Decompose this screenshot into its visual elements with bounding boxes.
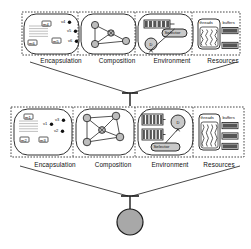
cell-environment-top-queue-slot [145,21,148,27]
cell-encapsulation-top-var-dot [74,30,77,33]
cell-composition-top-node [122,37,129,44]
cell-environment-middle-queue-slot [150,115,152,124]
cell-encapsulation-middle-method-label-m1: m1 [25,115,31,120]
cell-environment-middle-queue-slot [160,130,162,139]
cell-environment-middle-queue-slot [143,115,145,124]
cell-environment-top-queue-slot [149,21,152,27]
cell-environment-top-dispatcher-label: D [150,42,153,47]
cell-environment-middle-queue [142,114,163,125]
cell-encapsulation-top-var-label-v4: v4 [61,19,65,24]
cell-environment-middle-queue-slot [143,130,145,139]
cell-resources-middle-buffer-fill [223,144,237,148]
cell-encapsulation-middle-method-label-m2: m2 [21,138,27,143]
connector-middle-to-instance-left-leg [20,166,128,196]
cell-composition-top-node [91,40,98,47]
cell-environment-middle-queue-slot [146,130,148,139]
cell-label-environment: Environment [152,161,189,168]
cell-encapsulation-middle-var-dot [62,119,65,122]
cell-environment-middle-queue-slot [150,130,152,139]
connector-top-to-middle-left-leg [30,62,128,93]
cell-environment-middle-queue-slot [157,115,159,124]
instance-node [117,209,143,235]
cell-encapsulation-top-var-label-v6: v6 [68,38,72,43]
cell-environment-top-queue [144,20,170,28]
connector-middle-to-instance-right-leg [132,166,240,196]
cell-environment-top-queue-slot [153,21,156,27]
diagram-canvas: m4m5m6v4v5v6EncapsulationCompositionDSel… [0,0,251,249]
cell-label-resources: Resources [203,161,234,168]
cell-environment-middle-queue-slot [146,115,148,124]
cell-environment-top-selector-label: Selector [164,30,180,35]
cell-environment-top-queue-slot [162,21,165,27]
cell-resources-top-threads-label: threads [200,20,213,25]
cell-label-encapsulation: Encapsulation [34,161,75,168]
cell-label-environment: Environment [154,57,191,64]
cell-resources-top-buffers-label: buffers [223,20,235,25]
cell-label-composition: Composition [95,161,132,168]
cell-environment-top-queue-slot [166,21,169,27]
cell-composition-middle-node [112,112,120,120]
diagram-svg [0,0,251,249]
cell-environment-middle-queue [142,129,163,140]
cell-encapsulation-middle-var-label-v1: v1 [43,121,47,126]
cell-resources-middle-buffer-fill [223,124,237,128]
cell-encapsulation-middle-method-label-m3: m3 [40,138,46,143]
cell-environment-middle-queue-slot [157,130,159,139]
cell-resources-middle-buffer-fill [223,134,237,138]
cell-resources-top-buffer-fill [223,43,237,47]
cell-environment-middle-dispatcher-label: D [177,120,180,125]
cell-environment-middle-queue-slot [153,115,155,124]
cell-composition-middle-node [83,114,91,122]
cell-composition-middle-node [116,133,124,141]
cell-encapsulation-top-method-label-m5: m5 [53,39,59,44]
cell-resources-middle-threads-label: threads [201,115,214,120]
cell-encapsulation-top-method-label-m6: m6 [29,41,35,46]
cell-label-composition: Composition [99,57,136,64]
cell-encapsulation-middle-var-dot [50,123,53,126]
cell-environment-middle-queue-slot [153,130,155,139]
cell-environment-top-queue-slot [158,21,161,27]
cell-label-encapsulation: Encapsulation [40,57,81,64]
cell-encapsulation-middle-var-label-v2: v2 [54,128,58,133]
cell-encapsulation-top-var-dot [68,21,71,24]
cell-resources-top-buffer-fill [223,29,237,33]
connector-top-to-middle-right-leg [132,62,237,93]
cell-encapsulation-middle-var-label-v3: v3 [55,117,59,122]
cell-environment-middle-queue-slot [160,115,162,124]
cell-composition-middle-node [83,138,91,146]
cell-label-resources: Resources [207,57,238,64]
cell-environment-middle-selector-label: Selector [153,144,169,149]
cell-encapsulation-top-var-label-v5: v5 [67,28,71,33]
cell-encapsulation-middle-var-dot [61,130,64,133]
cell-composition-top-node [91,21,98,28]
cell-resources-middle-buffers-label: buffers [223,115,235,120]
cell-encapsulation-top-method-label-m4: m4 [43,22,49,27]
